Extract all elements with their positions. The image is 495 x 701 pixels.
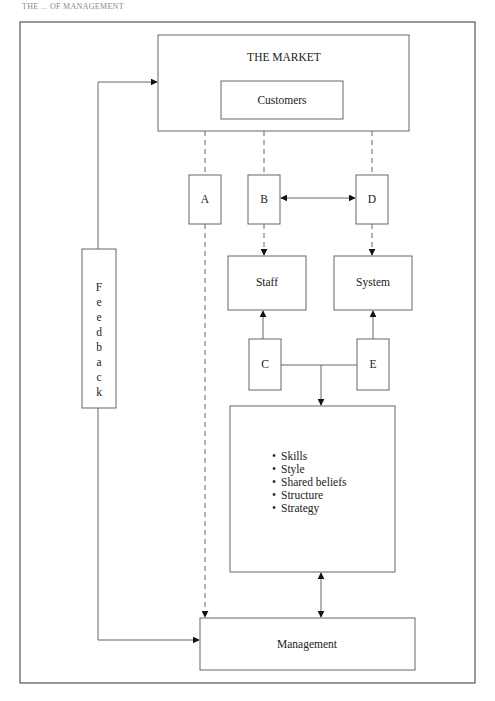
core-item-skills: Skills <box>272 450 347 463</box>
management-label: Management <box>277 638 337 650</box>
core-item-shared-beliefs: Shared beliefs <box>272 476 347 489</box>
diagram-canvas <box>0 0 495 701</box>
feedback-letter: k <box>96 385 102 400</box>
node-e-label: E <box>369 358 376 370</box>
feedback-letter: e <box>96 310 101 325</box>
core-values-list: Skills Style Shared beliefs Structure St… <box>272 450 347 515</box>
staff-label: Staff <box>256 276 278 288</box>
feedback-letter: c <box>96 370 101 385</box>
feedback-letter: F <box>96 280 102 295</box>
node-a-label: A <box>201 193 209 205</box>
feedback-letter: a <box>96 355 101 370</box>
core-item-strategy: Strategy <box>272 502 347 515</box>
node-c-label: C <box>261 358 269 370</box>
node-b-label: B <box>260 193 268 205</box>
feedback-letter: b <box>96 340 102 355</box>
system-label: System <box>356 276 390 288</box>
market-title: THE MARKET <box>247 51 321 63</box>
core-item-style: Style <box>272 463 347 476</box>
feedback-letter: e <box>96 295 101 310</box>
feedback-label: F e e d b a c k <box>82 280 116 400</box>
customers-label: Customers <box>257 94 306 106</box>
node-d-label: D <box>368 193 376 205</box>
market-box <box>158 35 409 131</box>
core-item-structure: Structure <box>272 489 347 502</box>
feedback-letter: d <box>96 325 102 340</box>
